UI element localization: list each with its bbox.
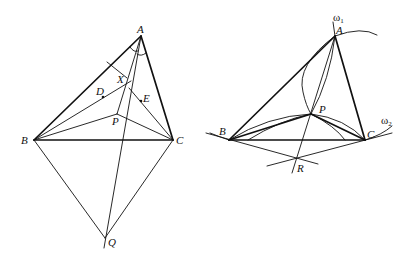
label-P-right: P — [318, 103, 326, 115]
omega1-subscript: 1 — [340, 17, 344, 25]
label-X: X — [116, 73, 125, 85]
right-figure: A B C P R ω1 ω2 — [206, 11, 392, 174]
line-AQ — [104, 36, 141, 248]
segment-BX — [34, 81, 131, 140]
left-figure: A B C P Q X D E — [21, 23, 184, 248]
label-Q: Q — [108, 236, 116, 248]
segment-CP-right — [311, 114, 365, 140]
omega2-symbol: ω — [381, 114, 388, 126]
geometry-diagram: A B C P Q X D E A B C P R ω1 ω2 — [0, 0, 416, 263]
label-E: E — [142, 92, 150, 104]
label-omega2: ω2 — [381, 114, 392, 128]
point-E — [140, 100, 143, 103]
segment-AC — [141, 36, 173, 140]
tangent-B — [206, 133, 318, 164]
omega1-symbol: ω — [333, 11, 340, 23]
label-C-right: C — [367, 128, 375, 140]
label-P-left: P — [111, 115, 119, 127]
label-omega1: ω1 — [333, 11, 344, 25]
label-A-left: A — [136, 23, 144, 35]
segment-CQ — [105, 140, 173, 238]
segment-CX — [129, 88, 173, 140]
label-B-left: B — [21, 134, 28, 146]
label-C-left: C — [176, 134, 184, 146]
label-A-right: A — [335, 24, 343, 36]
segment-AC-right — [335, 36, 365, 140]
omega2-subscript: 2 — [388, 120, 392, 128]
segment-BQ — [34, 140, 105, 238]
label-D: D — [95, 85, 104, 97]
label-R: R — [296, 162, 304, 174]
label-B-right: B — [219, 125, 226, 137]
